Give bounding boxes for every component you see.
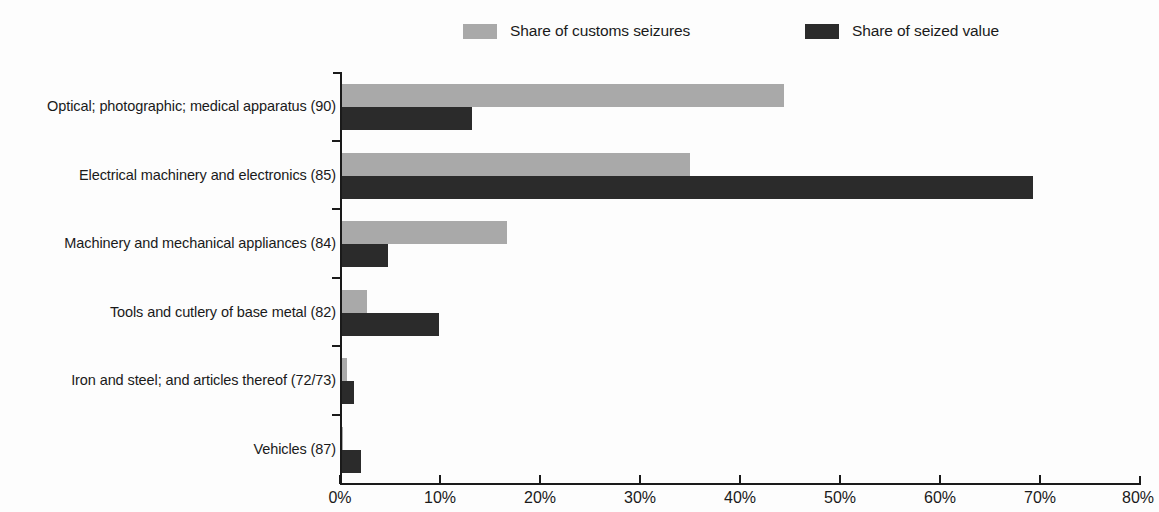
bar-share-of-customs-seizures-3: [342, 290, 367, 313]
x-axis-tick-label: 60%: [924, 489, 956, 507]
bar-share-of-seized-value-1: [342, 176, 1033, 199]
bar-share-of-customs-seizures-4: [342, 358, 347, 381]
y-axis-category-label: Electrical machinery and electronics (85…: [6, 167, 336, 183]
bar-share-of-seized-value-3: [342, 313, 439, 336]
y-axis-labels: Optical; photographic; medical apparatus…: [0, 0, 336, 512]
x-axis-tick-label: 80%: [1122, 489, 1154, 507]
x-axis-tick-label: 70%: [1024, 489, 1056, 507]
bar-share-of-seized-value-2: [342, 244, 388, 267]
x-axis-tick-label: 50%: [824, 489, 856, 507]
bars-layer: [342, 72, 1141, 483]
bar-share-of-customs-seizures-2: [342, 221, 507, 244]
y-axis-category-label: Optical; photographic; medical apparatus…: [6, 98, 336, 114]
bar-share-of-customs-seizures-1: [342, 153, 690, 176]
y-axis-category-label: Tools and cutlery of base metal (82): [6, 304, 336, 320]
x-axis-tick-label: 30%: [624, 489, 656, 507]
x-axis-tick-label: 40%: [724, 489, 756, 507]
y-axis-category-label: Vehicles (87): [6, 441, 336, 457]
x-axis-tick-label: 10%: [424, 489, 456, 507]
y-axis-category-label: Iron and steel; and articles thereof (72…: [6, 372, 336, 388]
bar-share-of-seized-value-0: [342, 107, 472, 130]
bar-share-of-customs-seizures-5: [342, 427, 343, 450]
x-axis-tick-label: 20%: [524, 489, 556, 507]
chart-page: Share of customs seizures Share of seize…: [0, 0, 1159, 512]
y-axis-category-label: Machinery and mechanical appliances (84): [6, 235, 336, 251]
x-axis-tick: [339, 475, 341, 484]
bar-share-of-seized-value-5: [342, 450, 361, 473]
bar-share-of-customs-seizures-0: [342, 84, 784, 107]
bar-share-of-seized-value-4: [342, 381, 354, 404]
